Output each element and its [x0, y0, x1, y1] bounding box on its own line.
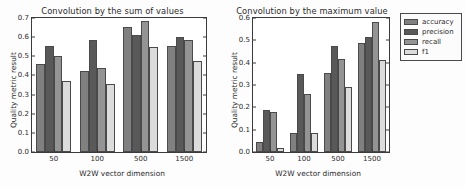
bar-f1-1500	[193, 61, 202, 152]
bar-accuracy-1500	[167, 46, 176, 152]
y-tick-mark	[203, 94, 206, 95]
y-tick-mark	[32, 132, 35, 133]
y-tick-label: 0.5	[239, 36, 250, 44]
x-tick-label: 1500	[175, 155, 193, 163]
bar-precision-50	[263, 110, 270, 152]
bar-f1-100	[106, 84, 115, 152]
x-tick-mark	[54, 149, 55, 152]
bar-accuracy-500	[123, 27, 132, 152]
x-tick-mark	[338, 149, 339, 152]
legend-swatch-icon	[404, 29, 418, 35]
bar-recall-1500	[184, 40, 193, 152]
x-tick-label: 100	[297, 155, 310, 163]
bar-precision-1500	[365, 37, 372, 152]
y-tick-label: 0.3	[18, 91, 29, 99]
y-tick-mark	[253, 107, 256, 108]
x-axis-label: W2W vector dimension	[0, 169, 244, 178]
x-tick-label: 500	[134, 155, 147, 163]
x-tick-mark	[97, 149, 98, 152]
bar-accuracy-100	[80, 71, 89, 152]
x-tick-label: 50	[266, 155, 275, 163]
figure-canvas: Convolution by the sum of values 0.00.10…	[0, 0, 465, 189]
bar-f1-50	[62, 81, 71, 152]
bar-recall-50	[54, 56, 63, 152]
legend-label: accuracy	[422, 17, 454, 27]
y-tick-label: 0.4	[239, 59, 250, 67]
x-tick-label: 100	[91, 155, 104, 163]
bar-f1-1500	[379, 60, 386, 152]
bar-accuracy-100	[290, 133, 297, 152]
bar-recall-500	[338, 59, 345, 152]
chart-title: Convolution by the sum of values	[0, 6, 225, 16]
y-tick-label: 0.4	[18, 71, 29, 79]
y-tick-mark	[32, 37, 35, 38]
y-tick-label: 0.5	[18, 52, 29, 60]
bar-precision-1500	[176, 37, 185, 152]
legend-label: f1	[422, 47, 429, 57]
x-tick-mark	[372, 149, 373, 152]
x-tick-mark	[141, 149, 142, 152]
y-tick-mark	[386, 107, 389, 108]
y-tick-mark	[203, 132, 206, 133]
bar-precision-500	[132, 35, 141, 152]
chart-panel-max: Convolution by the maximum value 0.00.10…	[222, 0, 402, 189]
y-tick-mark	[203, 113, 206, 114]
y-tick-label: 0.1	[18, 129, 29, 137]
x-tick-label: 50	[49, 155, 58, 163]
y-tick-mark	[253, 129, 256, 130]
plot-area: 0.00.10.20.30.40.50.60.7501005001500	[32, 18, 206, 152]
bar-precision-500	[331, 46, 338, 152]
bar-accuracy-50	[256, 142, 263, 152]
y-tick-label: 0.7	[18, 14, 29, 22]
y-tick-label: 0.6	[239, 14, 250, 22]
y-tick-mark	[386, 85, 389, 86]
bar-f1-100	[311, 133, 318, 152]
plot-area: 0.00.10.20.30.40.50.6501005001500	[253, 18, 389, 152]
y-tick-mark	[32, 56, 35, 57]
y-tick-mark	[32, 75, 35, 76]
y-tick-mark	[386, 129, 389, 130]
bar-precision-100	[89, 40, 98, 152]
y-tick-label: 0.3	[239, 81, 250, 89]
y-tick-label: 0.1	[239, 126, 250, 134]
legend-item-accuracy[interactable]: accuracy	[404, 17, 458, 27]
bar-recall-50	[270, 112, 277, 152]
bar-recall-100	[97, 68, 106, 152]
bar-accuracy-500	[324, 73, 331, 152]
y-tick-mark	[253, 62, 256, 63]
bar-recall-1500	[372, 22, 379, 152]
y-tick-mark	[203, 152, 206, 153]
bar-f1-500	[149, 47, 158, 152]
bar-precision-100	[297, 74, 304, 152]
y-tick-mark	[203, 37, 206, 38]
y-tick-mark	[203, 75, 206, 76]
y-tick-mark	[203, 18, 206, 19]
y-tick-mark	[32, 113, 35, 114]
x-tick-label: 500	[331, 155, 344, 163]
y-tick-mark	[203, 56, 206, 57]
legend-item-recall[interactable]: recall	[404, 37, 458, 47]
bar-recall-100	[304, 94, 311, 152]
legend-item-precision[interactable]: precision	[404, 27, 458, 37]
legend-swatch-icon	[404, 39, 418, 45]
y-tick-mark	[32, 18, 35, 19]
y-tick-label: 0.0	[18, 148, 29, 156]
y-tick-label: 0.0	[239, 148, 250, 156]
chart-legend: accuracyprecisionrecallf1	[400, 13, 462, 61]
y-tick-label: 0.2	[18, 110, 29, 118]
y-tick-mark	[386, 18, 389, 19]
y-tick-label: 0.6	[18, 33, 29, 41]
plot-axes: 0.00.10.20.30.40.50.60.7501005001500	[31, 17, 207, 153]
x-tick-label: 1500	[363, 155, 381, 163]
plot-axes: 0.00.10.20.30.40.50.6501005001500	[252, 17, 390, 153]
y-tick-mark	[253, 40, 256, 41]
y-tick-mark	[253, 18, 256, 19]
y-tick-label: 0.2	[239, 103, 250, 111]
bar-recall-500	[141, 21, 150, 152]
bar-accuracy-1500	[358, 43, 365, 152]
legend-swatch-icon	[404, 49, 418, 55]
bar-f1-500	[345, 87, 352, 152]
legend-item-f1[interactable]: f1	[404, 47, 458, 57]
bar-precision-50	[45, 46, 54, 152]
y-axis-label: Quality metric result	[230, 52, 239, 128]
